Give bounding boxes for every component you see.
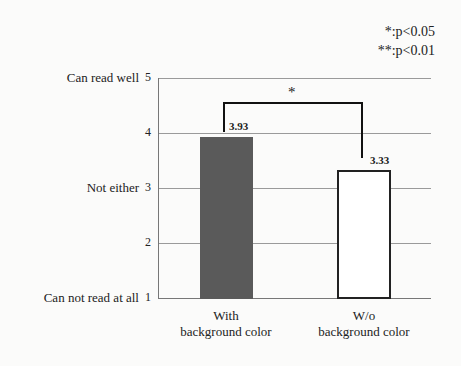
significance-legend: *:p<0.05 **:p<0.01 (378, 22, 435, 60)
value-label-without: 3.33 (370, 154, 389, 166)
bracket-right-leg (361, 102, 363, 158)
ylabel-can-not-read: Can not read at all (44, 290, 139, 306)
bracket-top (223, 102, 362, 104)
xlabel-without-line1: W/o (294, 308, 434, 324)
legend-p001: **:p<0.01 (378, 41, 435, 60)
xlabel-without-line2: background color (294, 324, 434, 340)
ytick-1: 1 (145, 290, 151, 305)
gridline-4 (158, 133, 431, 134)
bar-with-background (200, 137, 253, 299)
ylabel-can-read-well: Can read well (67, 70, 139, 86)
ytick-2: 2 (145, 235, 151, 250)
xlabel-with-line1: With (156, 308, 296, 324)
legend-p005: *:p<0.05 (378, 22, 435, 41)
ytick-4: 4 (145, 125, 151, 140)
bar-without-background (337, 170, 391, 299)
y-axis (158, 78, 159, 299)
xlabel-with-line2: background color (156, 324, 296, 340)
ylabel-not-either: Not either (87, 180, 139, 196)
ytick-5: 5 (145, 70, 151, 85)
value-label-with: 3.93 (229, 120, 248, 132)
significance-marker: * (288, 84, 296, 101)
bar-chart: *:p<0.05 **:p<0.01 5 4 3 2 1 Can read we… (0, 0, 461, 366)
xlabel-with: With background color (156, 308, 296, 340)
ytick-3: 3 (145, 180, 151, 195)
gridline-5 (158, 78, 431, 79)
xlabel-without: W/o background color (294, 308, 434, 340)
bracket-left-leg (223, 102, 225, 132)
